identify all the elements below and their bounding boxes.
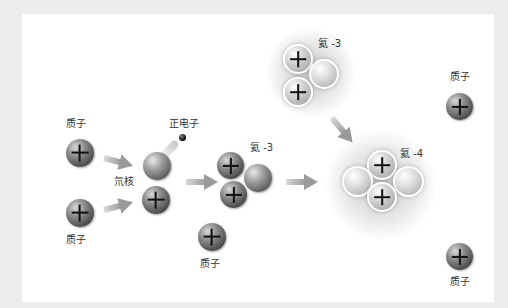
proton-label: 质子 (66, 234, 86, 246)
proton-label: 质子 (450, 71, 470, 83)
arrow-icon (102, 195, 135, 218)
neutron-icon (393, 166, 424, 197)
deuterium-label: 氘核 (114, 176, 134, 188)
helium3-label: 氦 -3 (250, 142, 273, 154)
proton-icon (283, 77, 313, 107)
proton-label: 质子 (450, 276, 470, 288)
arrow-icon (186, 174, 218, 190)
positron-icon (179, 134, 186, 141)
proton-label: 质子 (66, 118, 86, 130)
proton-icon (198, 223, 226, 251)
neutron-icon (244, 164, 272, 192)
proton-icon (367, 182, 397, 212)
neutron-icon (309, 59, 339, 89)
proton-icon (446, 243, 473, 270)
helium4-label: 氦 -4 (400, 148, 423, 160)
proton-icon (446, 93, 473, 120)
neutron-icon (143, 152, 171, 180)
proton-icon (220, 181, 247, 208)
proton-icon (66, 139, 94, 167)
arrow-icon (102, 150, 135, 173)
positron-label: 正电子 (169, 118, 199, 130)
helium3-label: 氦 -3 (318, 38, 341, 50)
proton-icon (142, 186, 170, 214)
proton-icon (217, 152, 244, 179)
arrow-icon (286, 174, 318, 190)
proton-icon (66, 199, 94, 227)
proton-label: 质子 (200, 258, 220, 270)
